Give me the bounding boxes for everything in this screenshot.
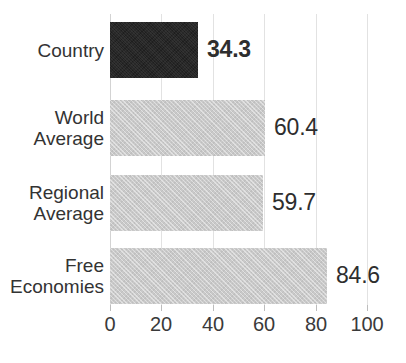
bar-chart: Country World Average Regional Average F… (0, 0, 406, 363)
category-label-world-average: World Average (4, 100, 104, 156)
tick-mark-100 (367, 305, 368, 311)
tick-mark-0 (110, 305, 111, 311)
bar-regional-average (110, 175, 263, 231)
bar-row-world-average: 60.4 (110, 100, 367, 156)
bar-row-regional-average: 59.7 (110, 175, 367, 231)
value-label-regional-average: 59.7 (272, 189, 316, 216)
bar-free-economies (110, 248, 327, 304)
value-label-country: 34.3 (207, 36, 251, 63)
axis-tick-label-40: 40 (202, 313, 224, 336)
value-label-free-economies: 84.6 (336, 262, 380, 289)
tick-mark-80 (316, 305, 317, 311)
bar-country (110, 22, 198, 78)
axis-tick-label-100: 100 (351, 313, 384, 336)
axis-tick-label-0: 0 (105, 313, 116, 336)
category-label-regional-average: Regional Average (4, 175, 104, 231)
tick-mark-40 (213, 305, 214, 311)
bar-world-average (110, 100, 265, 156)
axis-tick-label-60: 60 (253, 313, 275, 336)
axis-tick-label-20: 20 (150, 313, 172, 336)
tick-mark-60 (264, 305, 265, 311)
axis-tick-label-80: 80 (305, 313, 327, 336)
category-label-country: Country (4, 22, 104, 78)
category-label-free-economies: Free Economies (4, 248, 104, 304)
bar-row-country: 34.3 (110, 22, 367, 78)
plot-area: 34.3 60.4 59.7 84.6 (110, 14, 367, 305)
bar-row-free-economies: 84.6 (110, 248, 367, 304)
tick-mark-20 (161, 305, 162, 311)
value-label-world-average: 60.4 (274, 114, 318, 141)
